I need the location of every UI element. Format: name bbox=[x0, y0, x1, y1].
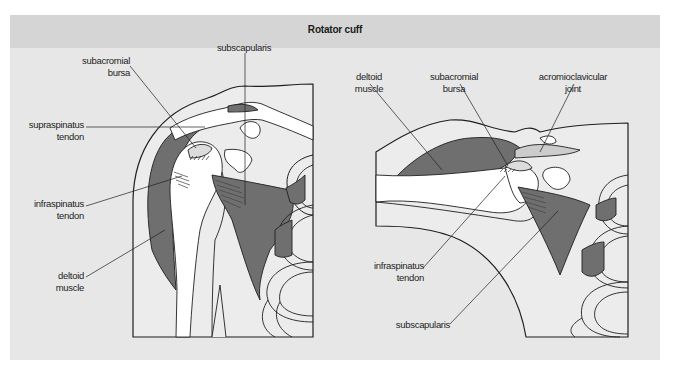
label-line: tendon bbox=[360, 272, 424, 284]
label-left-supraspinatus-tendon: supraspinatus tendon bbox=[18, 119, 84, 142]
label-line: bursa bbox=[424, 83, 484, 95]
label-line: infraspinatus bbox=[18, 198, 84, 210]
label-left-deltoid-muscle: deltoid muscle bbox=[18, 270, 84, 293]
label-line: deltoid bbox=[18, 270, 84, 282]
label-line: infraspinatus bbox=[360, 260, 424, 272]
label-right-subscapularis: subscapularis bbox=[386, 319, 450, 331]
label-line: subacromial bbox=[424, 71, 484, 83]
label-right-deltoid-muscle: deltoid muscle bbox=[344, 71, 394, 94]
label-line: muscle bbox=[18, 282, 84, 294]
label-right-infraspinatus-tendon: infraspinatus tendon bbox=[360, 260, 424, 283]
label-line: subscapularis bbox=[212, 42, 276, 54]
label-line: bursa bbox=[80, 67, 130, 79]
label-line: muscle bbox=[344, 83, 394, 95]
label-line: tendon bbox=[18, 131, 84, 143]
label-line: subscapularis bbox=[386, 319, 450, 331]
label-left-infraspinatus-tendon: infraspinatus tendon bbox=[18, 198, 84, 221]
label-left-subscapularis: subscapularis bbox=[212, 42, 276, 54]
label-line: subacromial bbox=[80, 55, 130, 67]
label-line: acromioclavicular bbox=[533, 71, 613, 83]
label-right-subacromial-bursa: subacromial bursa bbox=[424, 71, 484, 94]
label-left-subacromial-bursa: subacromial bursa bbox=[80, 55, 130, 78]
label-line: supraspinatus bbox=[18, 119, 84, 131]
label-right-acromioclavicular-joint: acromioclavicular joint bbox=[533, 71, 613, 94]
label-line: deltoid bbox=[344, 71, 394, 83]
label-line: tendon bbox=[18, 210, 84, 222]
label-line: joint bbox=[533, 83, 613, 95]
